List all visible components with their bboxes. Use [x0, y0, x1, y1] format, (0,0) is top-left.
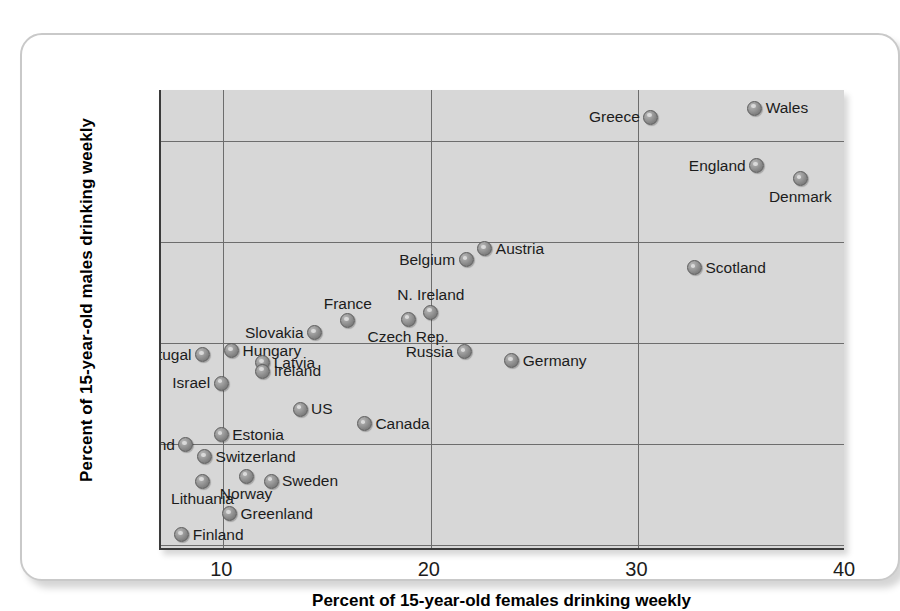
data-point-marker	[477, 241, 492, 256]
data-point-label: England	[689, 158, 746, 174]
data-point-marker	[264, 474, 279, 489]
gridline-vertical	[638, 90, 639, 548]
data-point-label: Denmark	[769, 189, 832, 205]
data-point-label: Greenland	[241, 506, 313, 522]
data-point-marker	[357, 416, 372, 431]
data-point-marker	[214, 376, 229, 391]
gridline-horizontal	[161, 545, 844, 546]
data-point-marker	[643, 110, 658, 125]
data-point-marker	[195, 474, 210, 489]
x-tick-label: 40	[833, 558, 855, 581]
data-point-marker	[504, 353, 519, 368]
data-point-marker	[197, 449, 212, 464]
data-point-marker	[749, 158, 764, 173]
data-point-marker	[401, 312, 416, 327]
data-point-label: Canada	[375, 416, 429, 432]
data-point-label: Russia	[406, 344, 453, 360]
data-point-label: N. Ireland	[397, 287, 464, 303]
data-point-label: Finland	[193, 527, 244, 543]
data-point-marker	[293, 402, 308, 417]
data-point-marker	[457, 344, 472, 359]
plot-area: WalesGreeceEnglandDenmarkAustriaBelgiumS…	[161, 90, 844, 548]
data-point-marker	[174, 527, 189, 542]
data-point-marker	[687, 260, 702, 275]
y-tick-label: 50	[0, 129, 149, 152]
data-point-marker	[239, 469, 254, 484]
y-tick-label: 10	[0, 533, 149, 556]
data-point-label: Greece	[589, 110, 640, 126]
data-point-label: Estonia	[232, 427, 284, 443]
gridline-horizontal	[161, 444, 844, 445]
data-point-label: Wales	[766, 100, 809, 116]
data-point-label: Israel	[172, 375, 210, 391]
data-point-marker	[307, 325, 322, 340]
data-point-marker	[224, 343, 239, 358]
data-point-marker	[423, 305, 438, 320]
data-point-marker	[747, 101, 762, 116]
data-point-marker	[340, 313, 355, 328]
data-point-marker	[178, 437, 193, 452]
data-point-label: Sweden	[282, 474, 338, 490]
y-tick-label: 40	[0, 230, 149, 253]
data-point-label: Germany	[523, 353, 587, 369]
data-point-marker	[793, 171, 808, 186]
figure-card: Percent of 15-year-old males drinking we…	[20, 33, 900, 581]
x-tick-label: 20	[418, 558, 440, 581]
data-point-label: Belgium	[399, 252, 455, 268]
x-tick-label: 30	[625, 558, 647, 581]
data-point-label: Scotland	[705, 260, 765, 276]
x-axis-title: Percent of 15-year-old females drinking …	[159, 591, 844, 611]
data-point-marker	[222, 506, 237, 521]
data-point-marker	[255, 364, 270, 379]
data-point-label: France	[324, 295, 372, 311]
data-point-label: Austria	[496, 241, 544, 257]
data-point-label: Lithuania	[171, 491, 234, 507]
gridline-vertical	[223, 90, 224, 548]
data-point-marker	[214, 427, 229, 442]
data-point-marker	[459, 252, 474, 267]
data-point-marker	[195, 347, 210, 362]
x-tick-label: 10	[210, 558, 232, 581]
data-point-label: Ireland	[274, 363, 321, 379]
data-point-label: US	[311, 402, 333, 418]
data-point-label: Slovakia	[245, 325, 304, 341]
y-tick-label: 30	[0, 331, 149, 354]
data-point-label: Switzerland	[216, 449, 296, 465]
data-point-label: Poland	[161, 437, 175, 453]
gridline-horizontal	[161, 141, 844, 142]
y-tick-label: 20	[0, 432, 149, 455]
plot-panel: WalesGreeceEnglandDenmarkAustriaBelgiumS…	[159, 90, 844, 550]
data-point-label: Portugal	[161, 347, 192, 363]
